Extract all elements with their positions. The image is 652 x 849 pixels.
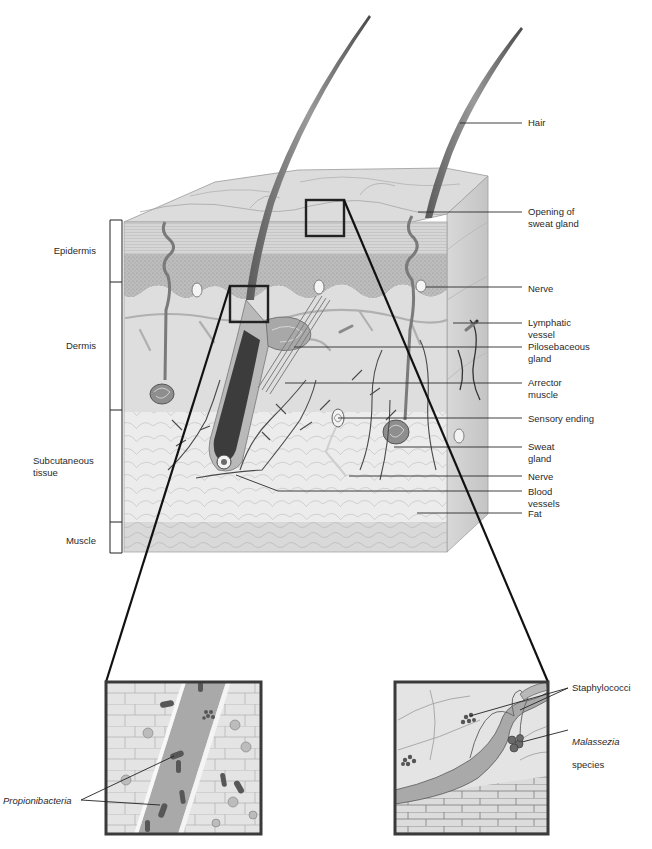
skin-diagram: Epidermis Dermis Subcutaneous tissue Mus…: [0, 0, 652, 849]
label-blood-vessels: Blood vessels: [528, 486, 560, 509]
layer-bracket: [110, 220, 122, 553]
label-nerve-lower: Nerve: [528, 471, 553, 483]
label-staphylococci: Staphylococci: [572, 682, 631, 694]
inset-surface: [395, 682, 568, 834]
label-epidermis: Epidermis: [10, 245, 96, 257]
front-face: [124, 222, 447, 552]
label-nerve-upper: Nerve: [528, 283, 553, 295]
label-malassezia-species: Malassezia species: [572, 724, 620, 770]
inset-follicle: [81, 682, 261, 834]
label-fat: Fat: [528, 508, 542, 520]
label-malassezia-species-word: species: [572, 759, 604, 770]
label-arrector-muscle: Arrector muscle: [528, 377, 562, 400]
label-pilosebaceous-gland: Pilosebaceous gland: [528, 341, 590, 364]
label-opening-of-sweat-gland: Opening of sweat gland: [528, 206, 579, 229]
sweat-gland-coil-left: [150, 384, 174, 404]
label-malassezia-genus: Malassezia: [572, 736, 620, 747]
label-sweat-gland: Sweat gland: [528, 441, 554, 464]
label-dermis: Dermis: [10, 340, 96, 352]
label-lymphatic-vessel: Lymphatic vessel: [528, 317, 571, 340]
label-hair: Hair: [528, 117, 545, 129]
label-propionibacteria: Propionibacteria: [3, 795, 72, 807]
label-muscle: Muscle: [10, 535, 96, 547]
label-sensory-ending: Sensory ending: [528, 413, 594, 425]
label-subcutaneous-tissue: Subcutaneous tissue: [33, 455, 113, 478]
skin-illustration: [0, 0, 652, 849]
